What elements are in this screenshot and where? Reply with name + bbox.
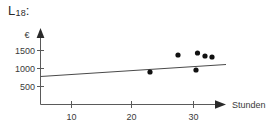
- x-axis-arrow-icon: [215, 100, 226, 109]
- y-tick-label-500: 500: [20, 82, 35, 92]
- x-tick-label-10: 10: [66, 112, 76, 122]
- data-point: [209, 54, 214, 59]
- x-tick-label-20: 20: [126, 112, 136, 122]
- data-point: [195, 50, 200, 55]
- data-point: [147, 69, 152, 74]
- y-tick-label-1000: 1000: [15, 64, 35, 74]
- scatter-plot: 1500 1000 500 10 20 30 € Stunden: [0, 0, 276, 137]
- y-axis-label-euro: €: [24, 30, 29, 40]
- y-axis-arrow-icon: [37, 28, 45, 38]
- x-axis-label-stunden: Stunden: [232, 100, 266, 110]
- data-point: [175, 52, 180, 57]
- data-point: [202, 53, 207, 58]
- chart-container: L18: 1500 1000 500 10 20 30 € Stunden: [0, 0, 276, 137]
- x-tick-label-30: 30: [188, 112, 198, 122]
- data-point: [193, 67, 198, 72]
- y-tick-label-1500: 1500: [15, 46, 35, 56]
